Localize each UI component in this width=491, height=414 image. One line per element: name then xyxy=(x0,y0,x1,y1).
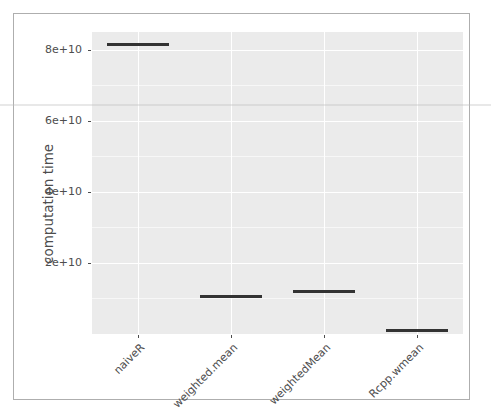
gridline-x-major xyxy=(324,32,325,334)
x-tick-mark xyxy=(417,335,418,338)
plot-frame: computation time 8e+106e+104e+102e+10 na… xyxy=(13,13,470,400)
y-tick-label: 8e+10 xyxy=(45,44,82,55)
x-tick-label: weightedMean xyxy=(182,341,333,414)
y-tick-mark xyxy=(88,50,91,51)
gridline-x-major xyxy=(231,32,232,334)
gridline-y-major xyxy=(92,121,463,122)
gridline-y-minor xyxy=(92,85,463,86)
data-mark-crossbar xyxy=(107,43,169,46)
y-tick-mark xyxy=(88,121,91,122)
y-tick-mark xyxy=(88,263,91,264)
scan-artifact xyxy=(0,104,491,106)
data-mark-crossbar xyxy=(293,290,355,293)
gridline-y-minor xyxy=(92,298,463,299)
gridline-x-major xyxy=(138,32,139,334)
x-tick-label: weighted.mean xyxy=(90,341,241,414)
gridline-y-major xyxy=(92,50,463,51)
data-mark-crossbar xyxy=(386,329,448,332)
gridline-y-minor xyxy=(92,156,463,157)
gridline-y-major xyxy=(92,192,463,193)
gridline-y-major xyxy=(92,263,463,264)
x-tick-label: Rcpp.wmean xyxy=(275,341,426,414)
gridline-y-minor xyxy=(92,227,463,228)
x-tick-mark xyxy=(324,335,325,338)
x-tick-mark xyxy=(138,335,139,338)
y-axis-title: computation time xyxy=(40,64,58,264)
data-mark-crossbar xyxy=(200,295,262,298)
x-tick-mark xyxy=(231,335,232,338)
plot-panel xyxy=(92,32,463,334)
y-tick-mark xyxy=(88,192,91,193)
x-tick-label: naiveR xyxy=(0,341,148,414)
chart-figure: computation time 8e+106e+104e+102e+10 na… xyxy=(0,0,491,414)
gridline-x-major xyxy=(417,32,418,334)
